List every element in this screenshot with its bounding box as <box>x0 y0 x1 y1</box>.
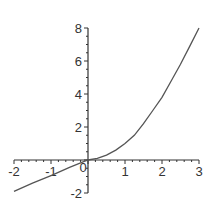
y-tick-label: 4 <box>75 87 82 102</box>
x-tick-label: -2 <box>8 164 20 179</box>
tick-labels: -2-10123-22468 <box>8 21 202 201</box>
x-tick-label: 1 <box>121 164 128 179</box>
data-line <box>14 28 199 191</box>
ticks <box>14 28 199 193</box>
y-tick-label: -2 <box>70 186 82 201</box>
x-tick-label: 2 <box>158 164 165 179</box>
chart: -2-10123-22468 <box>0 0 217 214</box>
y-tick-label: 8 <box>75 21 82 36</box>
y-tick-label: 6 <box>75 54 82 69</box>
x-tick-label: 3 <box>195 164 202 179</box>
axes <box>14 28 199 193</box>
y-tick-label: 2 <box>75 120 82 135</box>
